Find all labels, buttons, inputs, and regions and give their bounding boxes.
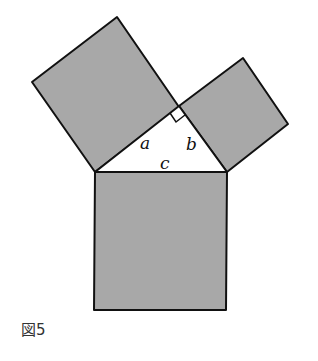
label-a: a [140, 133, 150, 153]
figure-caption: 図5 [21, 318, 46, 339]
label-b: b [186, 134, 197, 154]
square-on-side-c [94, 172, 227, 310]
figure: a b c 図5 [0, 0, 318, 361]
label-c: c [160, 153, 170, 173]
pythagoras-diagram: a b c [0, 0, 318, 361]
